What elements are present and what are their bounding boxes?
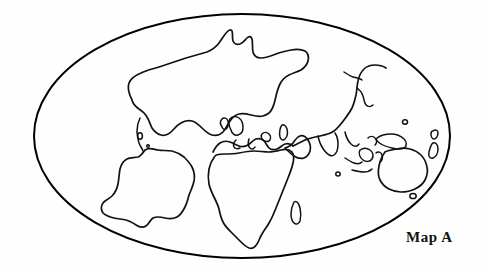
pacific-islet-2-icon bbox=[336, 172, 340, 176]
coastlines-group bbox=[102, 30, 439, 248]
map-frame-ellipse bbox=[34, 14, 450, 258]
philippines-outline bbox=[368, 137, 377, 146]
black-sea-outline bbox=[261, 133, 270, 142]
borneo-outline bbox=[359, 149, 373, 162]
map-caption-label: Map A bbox=[406, 229, 453, 246]
sumatra-outline bbox=[345, 158, 362, 164]
japan-outline bbox=[357, 88, 373, 107]
africa-outline bbox=[208, 149, 293, 248]
new-zealand-north-outline bbox=[431, 130, 438, 139]
new-guinea-outline bbox=[376, 134, 406, 149]
australia-outline bbox=[378, 148, 427, 192]
caribbean-islet-2-icon bbox=[147, 145, 150, 148]
north-america-outline bbox=[128, 30, 308, 135]
java-outline bbox=[352, 169, 372, 172]
british-isles-outline bbox=[221, 118, 229, 129]
indochina-outline bbox=[345, 132, 359, 146]
tasmania-outline bbox=[410, 193, 416, 198]
caribbean-islet-icon bbox=[138, 133, 143, 139]
madagascar-outline bbox=[291, 201, 301, 224]
pacific-islet-icon bbox=[403, 120, 408, 124]
caspian-sea-outline bbox=[280, 125, 288, 140]
south-america-outline bbox=[102, 148, 195, 227]
new-zealand-south-outline bbox=[429, 143, 438, 158]
map-figure: Map A bbox=[0, 0, 486, 272]
